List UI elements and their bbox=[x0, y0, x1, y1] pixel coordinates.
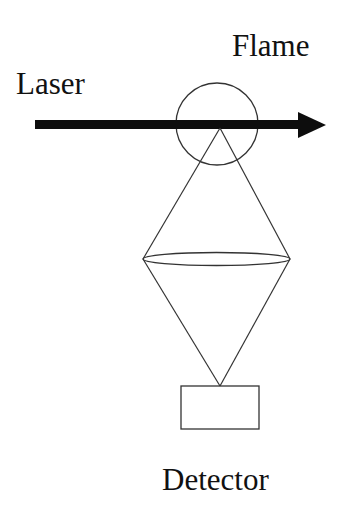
flame-label: Flame bbox=[232, 28, 310, 63]
laser-label: Laser bbox=[16, 66, 86, 101]
laser-arrow bbox=[35, 112, 326, 138]
diagram-canvas: Laser Flame Detector bbox=[0, 0, 349, 508]
detector-label: Detector bbox=[162, 462, 269, 497]
lens-ellipse bbox=[143, 253, 290, 266]
detector-box bbox=[181, 386, 259, 429]
light-cone bbox=[143, 128, 290, 386]
